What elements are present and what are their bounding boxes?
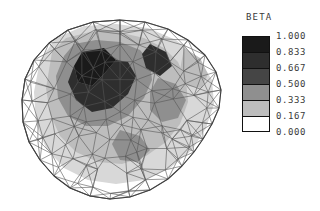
legend-label-column: 1.0000.8330.6670.5000.3330.1670.000: [276, 28, 320, 140]
contour-plot-figure: BETA 1.0000.8330.6670.5000.3330.1670.000: [0, 0, 320, 211]
mesh-edge: [54, 176, 78, 183]
legend-label: 0.500: [276, 76, 320, 92]
mesh-edge: [23, 121, 38, 122]
mesh-edge: [90, 193, 111, 196]
mesh-edge: [93, 187, 111, 193]
mesh-edge: [111, 193, 130, 197]
legend-swatch: [242, 52, 270, 68]
legend-label: 0.333: [276, 92, 320, 108]
legend-title: BETA: [246, 12, 320, 23]
mesh-edge: [165, 170, 168, 179]
mesh-edge: [110, 193, 111, 199]
mesh-edge: [70, 183, 78, 188]
mesh-edge: [40, 154, 52, 160]
legend-label: 0.667: [276, 60, 320, 76]
legend-swatch: [242, 84, 270, 100]
mesh-edge: [54, 167, 59, 176]
mesh-edge: [78, 183, 93, 187]
mesh-edge: [34, 60, 39, 67]
mesh-edge: [146, 179, 169, 180]
mesh-edge: [70, 187, 93, 188]
legend-label: 1.000: [276, 28, 320, 44]
legend-swatch: [242, 68, 270, 84]
legend-swatch: [242, 36, 270, 52]
legend-body: 1.0000.8330.6670.5000.3330.1670.000: [238, 28, 320, 132]
legend-label: 0.167: [276, 108, 320, 124]
legend-swatch: [242, 116, 270, 132]
legend-label: 0.000: [276, 124, 320, 140]
legend-label: 0.833: [276, 44, 320, 60]
legend-swatch: [242, 100, 270, 116]
legend-swatch-column: [242, 36, 270, 132]
legend-panel: BETA 1.0000.8330.6670.5000.3330.1670.000: [238, 12, 320, 132]
